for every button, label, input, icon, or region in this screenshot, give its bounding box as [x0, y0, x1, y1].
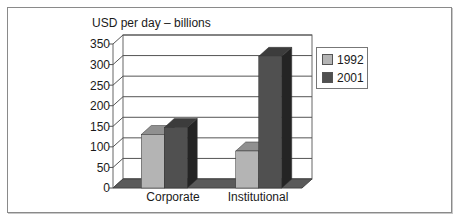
y-tick-label: 150 — [80, 121, 110, 133]
x-category-label: Institutional — [213, 190, 303, 204]
y-tick-label: 50 — [80, 162, 110, 174]
y-tick-label: 250 — [80, 80, 110, 92]
x-category-label: Corporate — [128, 190, 218, 204]
y-tick-label: 300 — [80, 59, 110, 71]
plot-area — [0, 0, 459, 220]
bar-institutional-2001 — [259, 47, 292, 188]
y-tick-label: 0 — [80, 182, 110, 194]
legend: 1992 2001 — [316, 47, 368, 89]
y-tick-label: 350 — [80, 38, 110, 50]
legend-item-2001: 2001 — [322, 72, 364, 84]
y-tick-label: 200 — [80, 100, 110, 112]
legend-item-1992: 1992 — [322, 54, 364, 66]
legend-swatch-1992 — [322, 54, 333, 65]
legend-swatch-2001 — [322, 72, 333, 83]
bar-corporate-2001 — [164, 119, 197, 188]
y-tick-label: 100 — [80, 141, 110, 153]
